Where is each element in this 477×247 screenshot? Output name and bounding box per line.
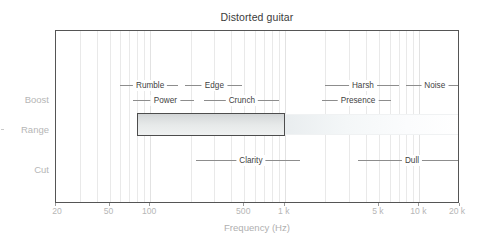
annotation-label: Edge: [202, 80, 227, 91]
annotation-label: Crunch: [226, 95, 258, 106]
annotation-label: Dull: [402, 155, 422, 166]
gridline: [110, 31, 111, 202]
annotation-label: Clarity: [236, 155, 265, 166]
x-axis-tick-label: 50: [104, 206, 114, 216]
x-axis-tick-label: 20: [52, 206, 62, 216]
x-axis-tick-label: 1 k: [278, 206, 289, 216]
x-axis-tick-label: 500: [236, 206, 250, 216]
gridline: [120, 31, 121, 202]
range-bar[interactable]: [137, 113, 285, 136]
y-axis: BoostRangeCut: [0, 30, 49, 203]
annotation-label: Presence: [338, 95, 379, 106]
x-axis-tick-label: 100: [142, 206, 156, 216]
x-axis-tick-label: 5 k: [372, 206, 383, 216]
x-axis: 20501005001 k5 k10 k20 k: [55, 204, 459, 220]
gridline: [129, 31, 130, 202]
x-axis-tick-label: 20 k: [449, 206, 465, 216]
annotation-label: Power: [151, 95, 180, 106]
x-axis-tick-label: 10 k: [410, 206, 426, 216]
plot-area: RumbleEdgeHarshNoisePowerCrunchPresenceC…: [55, 30, 459, 203]
annotation-label: Harsh: [349, 80, 377, 91]
annotation-label: Rumble: [133, 80, 167, 91]
y-axis-tick-label: Range: [21, 124, 49, 135]
x-axis-title: Frequency (Hz): [55, 222, 459, 233]
y-axis-tick-label: Boost: [25, 94, 49, 105]
page-title: Distorted guitar: [55, 11, 459, 23]
chart-figure: Distorted guitar BoostRangeCut RumbleEdg…: [0, 0, 477, 247]
range-bar-tail: [285, 114, 459, 135]
gridline: [97, 31, 98, 202]
annotation-label: Noise: [421, 80, 448, 91]
y-axis-tick-label: Cut: [34, 164, 49, 175]
y-axis-tick-mark: [1, 129, 4, 130]
gridline: [80, 31, 81, 202]
